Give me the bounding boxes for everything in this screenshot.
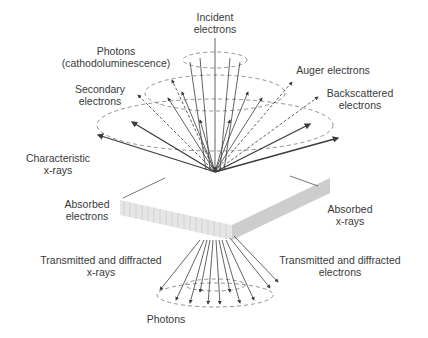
label-line: Secondary	[75, 83, 125, 95]
label-absorbed-electrons: Absorbed electrons	[65, 198, 110, 222]
label-line: Absorbed	[65, 198, 110, 210]
label-line: (cathodoluminescence)	[62, 57, 171, 69]
label-line: electrons	[327, 99, 394, 111]
label-incident-electrons: Incident electrons	[194, 11, 237, 35]
label-photons-bottom: Photons	[147, 313, 186, 325]
transmitted-rays	[160, 236, 278, 304]
label-line: electrons	[65, 210, 110, 222]
specimen-slab	[120, 172, 330, 240]
label-line: Auger electrons	[296, 64, 370, 76]
label-line: Incident	[194, 11, 237, 23]
label-line: electrons	[194, 23, 237, 35]
label-line: Photons	[147, 313, 186, 325]
label-line: Transmitted and diffracted	[40, 254, 161, 266]
label-line: Backscattered	[327, 87, 394, 99]
label-line: Transmitted and diffracted	[279, 254, 400, 266]
label-line: electrons	[279, 266, 400, 278]
label-line: x-rays	[40, 266, 161, 278]
label-photons-cathodoluminescence: Photons (cathodoluminescence)	[62, 45, 171, 69]
incident-beam	[190, 38, 240, 170]
label-line: Characteristic	[26, 152, 90, 164]
electron-interaction-diagram: Incident electrons Photons (cathodolumin…	[0, 0, 428, 338]
label-transmitted-diffracted-x-rays: Transmitted and diffracted x-rays	[40, 254, 161, 278]
label-transmitted-diffracted-electrons: Transmitted and diffracted electrons	[279, 254, 400, 278]
emitted-rays	[98, 80, 338, 172]
label-secondary-electrons: Secondary electrons	[75, 83, 125, 107]
label-line: Absorbed	[328, 203, 373, 215]
label-line: electrons	[75, 95, 125, 107]
label-auger-electrons: Auger electrons	[296, 64, 370, 76]
label-line: Photons	[62, 45, 171, 57]
label-absorbed-x-rays: Absorbed x-rays	[328, 203, 373, 227]
label-backscattered-electrons: Backscattered electrons	[327, 87, 394, 111]
label-line: x-rays	[26, 164, 90, 176]
label-characteristic-x-rays: Characteristic x-rays	[26, 152, 90, 176]
label-line: x-rays	[328, 215, 373, 227]
